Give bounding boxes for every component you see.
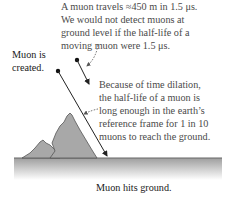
dilation-annotation-line: the half-life of a muon is xyxy=(99,91,210,104)
top-annotation-line: A muon travels ≈450 m in 1.5 μs. xyxy=(61,0,197,13)
dilation-annotation-line: Because of time dilation, xyxy=(99,78,210,91)
created-label-line: created. xyxy=(12,61,46,74)
mountain-large xyxy=(50,113,97,158)
top-annotation: A muon travels ≈450 m in 1.5 μs. We woul… xyxy=(61,0,197,52)
top-annotation-line: ground level if the half-life of a xyxy=(61,26,197,39)
top-annotation-line: moving muon were 1.5 μs. xyxy=(61,39,197,52)
muon-created-label: Muon is created. xyxy=(12,48,46,74)
created-label-line: Muon is xyxy=(12,48,46,61)
dilation-annotation-line: muons to reach the ground. xyxy=(99,130,210,143)
dashed-pointer-mid xyxy=(84,109,98,114)
muon-hits-ground-label: Muon hits ground. xyxy=(96,181,172,194)
dilation-annotation-line: long enough in the earth’s xyxy=(99,104,210,117)
ground-shade xyxy=(14,158,222,180)
top-annotation-line: We would not detect muons at xyxy=(61,13,197,26)
time-dilation-annotation: Because of time dilation, the half-life … xyxy=(99,78,210,143)
muon-trajectory-short xyxy=(77,60,89,84)
dilation-annotation-line: reference frame for 1 in 10 xyxy=(99,117,210,130)
